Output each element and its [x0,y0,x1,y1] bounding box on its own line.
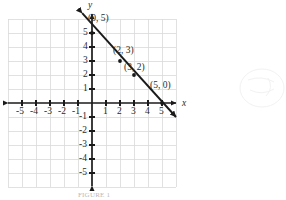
point-label-5-0: (5, 0) [150,81,171,91]
y-axis-label: y [88,1,92,11]
y-tick-label-5: 5 [83,28,88,38]
data-point-2-3 [118,59,122,63]
y-tick-label-neg5: -5 [79,168,87,178]
x-tick-label-neg2: -2 [58,107,66,117]
axes [8,14,176,186]
x-tick-label-neg4: -4 [30,107,38,117]
y-tick-label-neg1: -1 [79,112,87,122]
x-tick-label-4: 4 [145,107,150,117]
x-tick-label-3: 3 [131,107,136,117]
x-tick-label-5: 5 [159,107,164,117]
x-tick-label-neg5: -5 [16,107,24,117]
x-tick-label-neg3: -3 [44,107,52,117]
point-label-3-2: (3, 2) [124,63,145,73]
point-label-0-5: (0, 5) [88,14,109,24]
x-tick-label-1: 1 [103,107,108,117]
y-tick-label-4: 4 [83,42,88,52]
scan-smudge-artifact [240,69,284,107]
point-label-2-3: (2, 3) [113,46,134,56]
data-point-5-0 [160,101,164,105]
figure-caption: FIGURE 1 [78,192,110,199]
y-tick-label-neg2: -2 [79,126,87,136]
y-tick-label-3: 3 [83,56,88,66]
y-tick-label-2: 2 [83,70,88,80]
y-tick-label-neg4: -4 [79,154,87,164]
x-axis-label: x [182,99,186,109]
x-tick-label-2: 2 [117,107,122,117]
y-tick-label-1: 1 [83,84,88,94]
coordinate-plane-figure: -5 -4 -3 -2 -1 1 2 3 4 5 5 4 3 2 1 -1 -2… [0,0,286,200]
data-point-3-2 [132,73,136,77]
y-tick-label-neg3: -3 [79,140,87,150]
data-point-0-5 [90,31,94,35]
graph-canvas [0,0,286,200]
